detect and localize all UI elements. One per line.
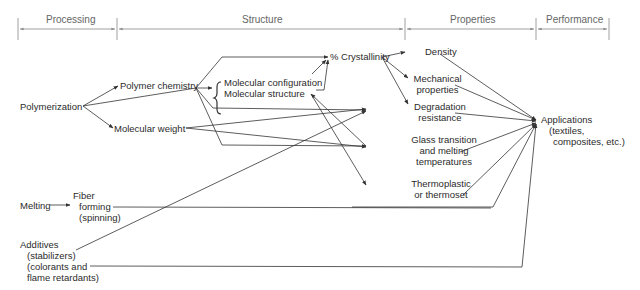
node-degradation-resistance: Degradationresistance — [410, 101, 470, 123]
node-additives: Additives (stabilizers) (colorants and f… — [20, 239, 99, 283]
node-molecular-configuration: Molecular configuration — [224, 77, 322, 88]
node-thermoplastic-thermoset: Thermoplasticor thermoset — [407, 178, 475, 200]
node-mechanical-properties: Mechanicalproperties — [410, 73, 465, 95]
node-density: Density — [425, 46, 457, 57]
node-molecular-structure: Molecular structure — [224, 88, 305, 99]
node-applications: Applications (textiles, composites, etc.… — [541, 114, 625, 147]
node-fiber-forming: Fiber forming (spinning) — [73, 190, 121, 223]
stage-header-lines — [18, 18, 609, 40]
node-glass-transition: Glass transitionand meltingtemperatures — [407, 134, 481, 167]
node-polymerization: Polymerization — [20, 101, 82, 112]
stage-processing: Processing — [46, 14, 95, 25]
brace — [214, 82, 221, 114]
node-polymer-chemistry: Polymer chemistry — [120, 80, 198, 91]
stage-performance: Performance — [546, 14, 603, 25]
stage-properties: Properties — [450, 14, 496, 25]
node-melting: Melting — [20, 200, 51, 211]
node-molecular-weight: Molecular weight — [114, 123, 185, 134]
node-crystallinity: % Crystallinity — [330, 51, 390, 62]
stage-structure: Structure — [242, 14, 283, 25]
